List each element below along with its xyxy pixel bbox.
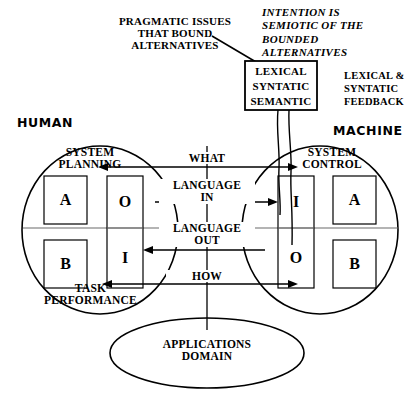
flow-label-language-out: LANGUAGE OUT [159,222,255,247]
flow-language-in-arrow [268,198,278,206]
human-title: HUMAN [17,116,73,130]
lexical-box-line-2: SYNTATIC [245,79,317,94]
lexical-box-line-1: LEXICAL [245,64,317,79]
applications-domain-label: APPLICATIONS DOMAIN [132,338,282,363]
machine-cell-b: B [333,240,376,288]
human-cell-a: A [44,176,87,224]
lexical-syntatic-feedback-note: LEXICAL & SYNTATIC FEEDBACK [344,69,418,108]
machine-top-label: SYSTEM CONTROL [277,146,387,171]
machine-ellipse [242,146,398,314]
diagram-canvas: PRAGMATIC ISSUES THAT BOUND ALTERNATIVES… [0,0,418,409]
machine-cell-a: A [333,176,376,224]
human-cell-b: B [44,240,87,288]
flow-language-out-arrow [143,246,153,254]
flow-label-what: WHAT [166,152,248,164]
human-cell-i: I [107,228,143,288]
intention-semiotic-note: INTENTION IS SEMIOTIC OF THE BOUNDED ALT… [262,6,412,60]
machine-cell-i: I [278,176,314,228]
lexical-box-line-3: SEMANTIC [245,94,317,109]
human-cell-o: O [107,176,143,228]
machine-cell-o: O [278,228,314,288]
pragmatic-issues-note: PRAGMATIC ISSUES THAT BOUND ALTERNATIVES [110,16,240,52]
flow-label-how: HOW [166,270,248,282]
machine-title: MACHINE [333,124,403,138]
flow-label-language-in: LANGUAGE IN [159,179,255,204]
human-top-label: SYSTEM PLANNING [35,146,145,171]
